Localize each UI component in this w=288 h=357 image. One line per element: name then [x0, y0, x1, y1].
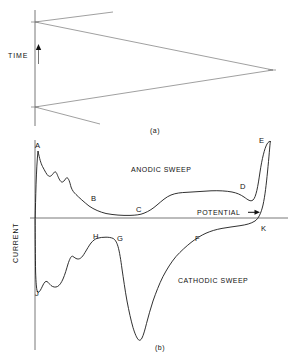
panel-a-lead-in-segment	[35, 12, 113, 22]
cyclic-voltammetry-figure: TIME (a) POTENTIAL	[0, 0, 288, 357]
panel-a-forward-ramp	[35, 22, 273, 70]
point-label-k: K	[261, 224, 266, 233]
point-label-g: G	[117, 234, 123, 243]
up-arrow-icon	[36, 44, 41, 64]
panel-a-reverse-ramp	[35, 70, 273, 107]
point-label-h: H	[93, 232, 98, 241]
panel-a-caption: (a)	[150, 127, 160, 135]
point-label-a: A	[35, 141, 41, 150]
panel-b-group: POTENTIAL CURRENT ANODIC SWEEP CATHODIC …	[12, 136, 288, 352]
point-label-e: E	[259, 136, 264, 145]
panel-a-lead-out-segment	[35, 107, 100, 124]
anodic-sweep-label: ANODIC SWEEP	[131, 166, 191, 173]
point-label-c: C	[136, 205, 142, 214]
panel-b-caption: (b)	[155, 344, 165, 352]
right-arrow-icon	[248, 210, 260, 215]
time-axis-label: TIME	[8, 52, 28, 59]
panel-a-group: TIME (a)	[8, 10, 276, 135]
point-label-d: D	[240, 182, 246, 191]
figure-container: TIME (a) POTENTIAL	[0, 0, 288, 357]
point-label-b: B	[91, 194, 96, 203]
cathodic-sweep-label: CATHODIC SWEEP	[178, 277, 248, 284]
point-label-f: F	[195, 234, 200, 243]
current-axis-label: CURRENT	[12, 222, 19, 263]
anodic-sweep-curve	[35, 141, 270, 218]
potential-axis-label: POTENTIAL	[197, 209, 240, 216]
point-label-j: J	[35, 289, 39, 298]
